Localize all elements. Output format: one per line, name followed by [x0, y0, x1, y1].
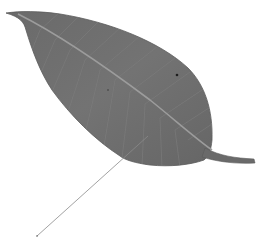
- leaf-image: [0, 0, 269, 241]
- leaf-blade: [6, 12, 212, 166]
- leaf-spot-small: [107, 89, 109, 91]
- pointer-line: [37, 136, 148, 236]
- leaf-spot: [176, 74, 179, 77]
- leaf-petiole: [202, 148, 255, 163]
- pointer-end-dot: [36, 235, 38, 237]
